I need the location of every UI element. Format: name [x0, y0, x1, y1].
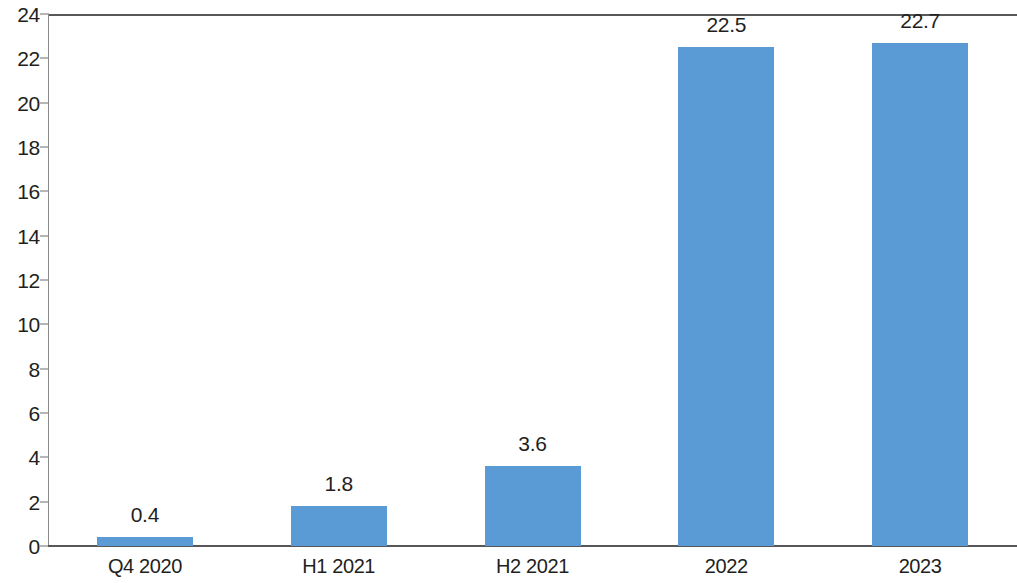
- x-axis-tick-label: Q4 2020: [55, 556, 235, 576]
- x-axis-tick-label: 2022: [636, 556, 816, 576]
- bar[interactable]: [678, 47, 774, 546]
- y-axis-tick-label: 4: [0, 447, 40, 468]
- bar-chart: 024681012141618202224 0.4Q4 20201.8H1 20…: [0, 0, 1017, 583]
- y-axis-tick-label: 2: [0, 491, 40, 512]
- y-axis: 024681012141618202224: [0, 0, 40, 583]
- bar[interactable]: [97, 537, 193, 546]
- y-axis-tick-label: 8: [0, 358, 40, 379]
- y-axis-tick-label: 18: [0, 137, 40, 158]
- bar-value-label: 1.8: [279, 473, 399, 494]
- y-axis-tick-label: 14: [0, 225, 40, 246]
- bar-value-label: 0.4: [85, 504, 205, 525]
- x-axis-tick-label: H1 2021: [249, 556, 429, 576]
- y-axis-tick-label: 20: [0, 92, 40, 113]
- bar-value-label: 22.5: [666, 14, 786, 35]
- bar[interactable]: [485, 466, 581, 546]
- plot-area: [48, 14, 1017, 546]
- x-axis-tick-label: 2023: [830, 556, 1010, 576]
- y-axis-tick-label: 12: [0, 270, 40, 291]
- bar-value-label: 22.7: [860, 10, 980, 31]
- y-axis-tick-label: 16: [0, 181, 40, 202]
- bar-value-label: 3.6: [473, 433, 593, 454]
- x-axis-tick-label: H2 2021: [443, 556, 623, 576]
- y-axis-tick-label: 24: [0, 4, 40, 25]
- y-axis-tick-label: 0: [0, 536, 40, 557]
- y-axis-tick-label: 10: [0, 314, 40, 335]
- y-axis-tick-label: 22: [0, 48, 40, 69]
- bar[interactable]: [872, 43, 968, 546]
- y-axis-tick-label: 6: [0, 403, 40, 424]
- bar[interactable]: [291, 506, 387, 546]
